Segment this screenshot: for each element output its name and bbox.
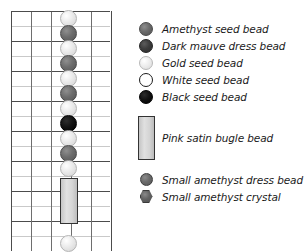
legend-item-label: White seed bead — [156, 74, 249, 86]
pink-satin-bugle-bead-icon — [136, 116, 156, 160]
legend-item-label: Small amethyst dress bead — [156, 174, 303, 186]
legend-item-label: Amethyst seed bead — [156, 23, 269, 35]
legend-item-label: Black seed bead — [156, 91, 247, 103]
bead-sequence-column — [11, 11, 110, 251]
gold-seed-bead-icon — [136, 56, 156, 70]
amethyst-seed-bead-icon — [136, 22, 156, 36]
white-seed-bead-icon — [136, 73, 156, 87]
black-seed-bead-icon — [136, 90, 156, 104]
legend-item-white-seed-bead: White seed bead — [136, 71, 302, 88]
legend-item-label: Small amethyst crystal — [156, 191, 281, 203]
legend-item-label: Pink satin bugle bead — [156, 132, 273, 144]
grid-vertical-line — [111, 11, 112, 251]
legend-item-label: Gold seed bead — [156, 57, 243, 69]
gold-bead-icon — [60, 160, 77, 177]
small-amethyst-crystal-icon — [136, 190, 156, 203]
legend-item-small-amethyst-crystal: Small amethyst crystal — [136, 188, 302, 205]
legend-spacer — [136, 161, 302, 171]
legend-item-amethyst-seed-bead: Amethyst seed bead — [136, 20, 302, 37]
legend-spacer — [136, 105, 302, 115]
gold-bead-icon — [60, 235, 77, 252]
legend: Amethyst seed bead Dark mauve dress bead… — [136, 20, 302, 205]
legend-item-black-seed-bead: Black seed bead — [136, 88, 302, 105]
legend-item-label: Dark mauve dress bead — [156, 40, 285, 52]
dark-mauve-dress-bead-icon — [136, 39, 156, 53]
small-amethyst-dress-bead-icon — [136, 173, 156, 186]
legend-item-small-amethyst-dress-bead: Small amethyst dress bead — [136, 171, 302, 188]
bugle-bead-icon — [60, 178, 78, 224]
legend-item-pink-satin-bugle-bead: Pink satin bugle bead — [136, 115, 302, 161]
legend-item-gold-seed-bead: Gold seed bead — [136, 54, 302, 71]
legend-item-dark-mauve-dress-bead: Dark mauve dress bead — [136, 37, 302, 54]
